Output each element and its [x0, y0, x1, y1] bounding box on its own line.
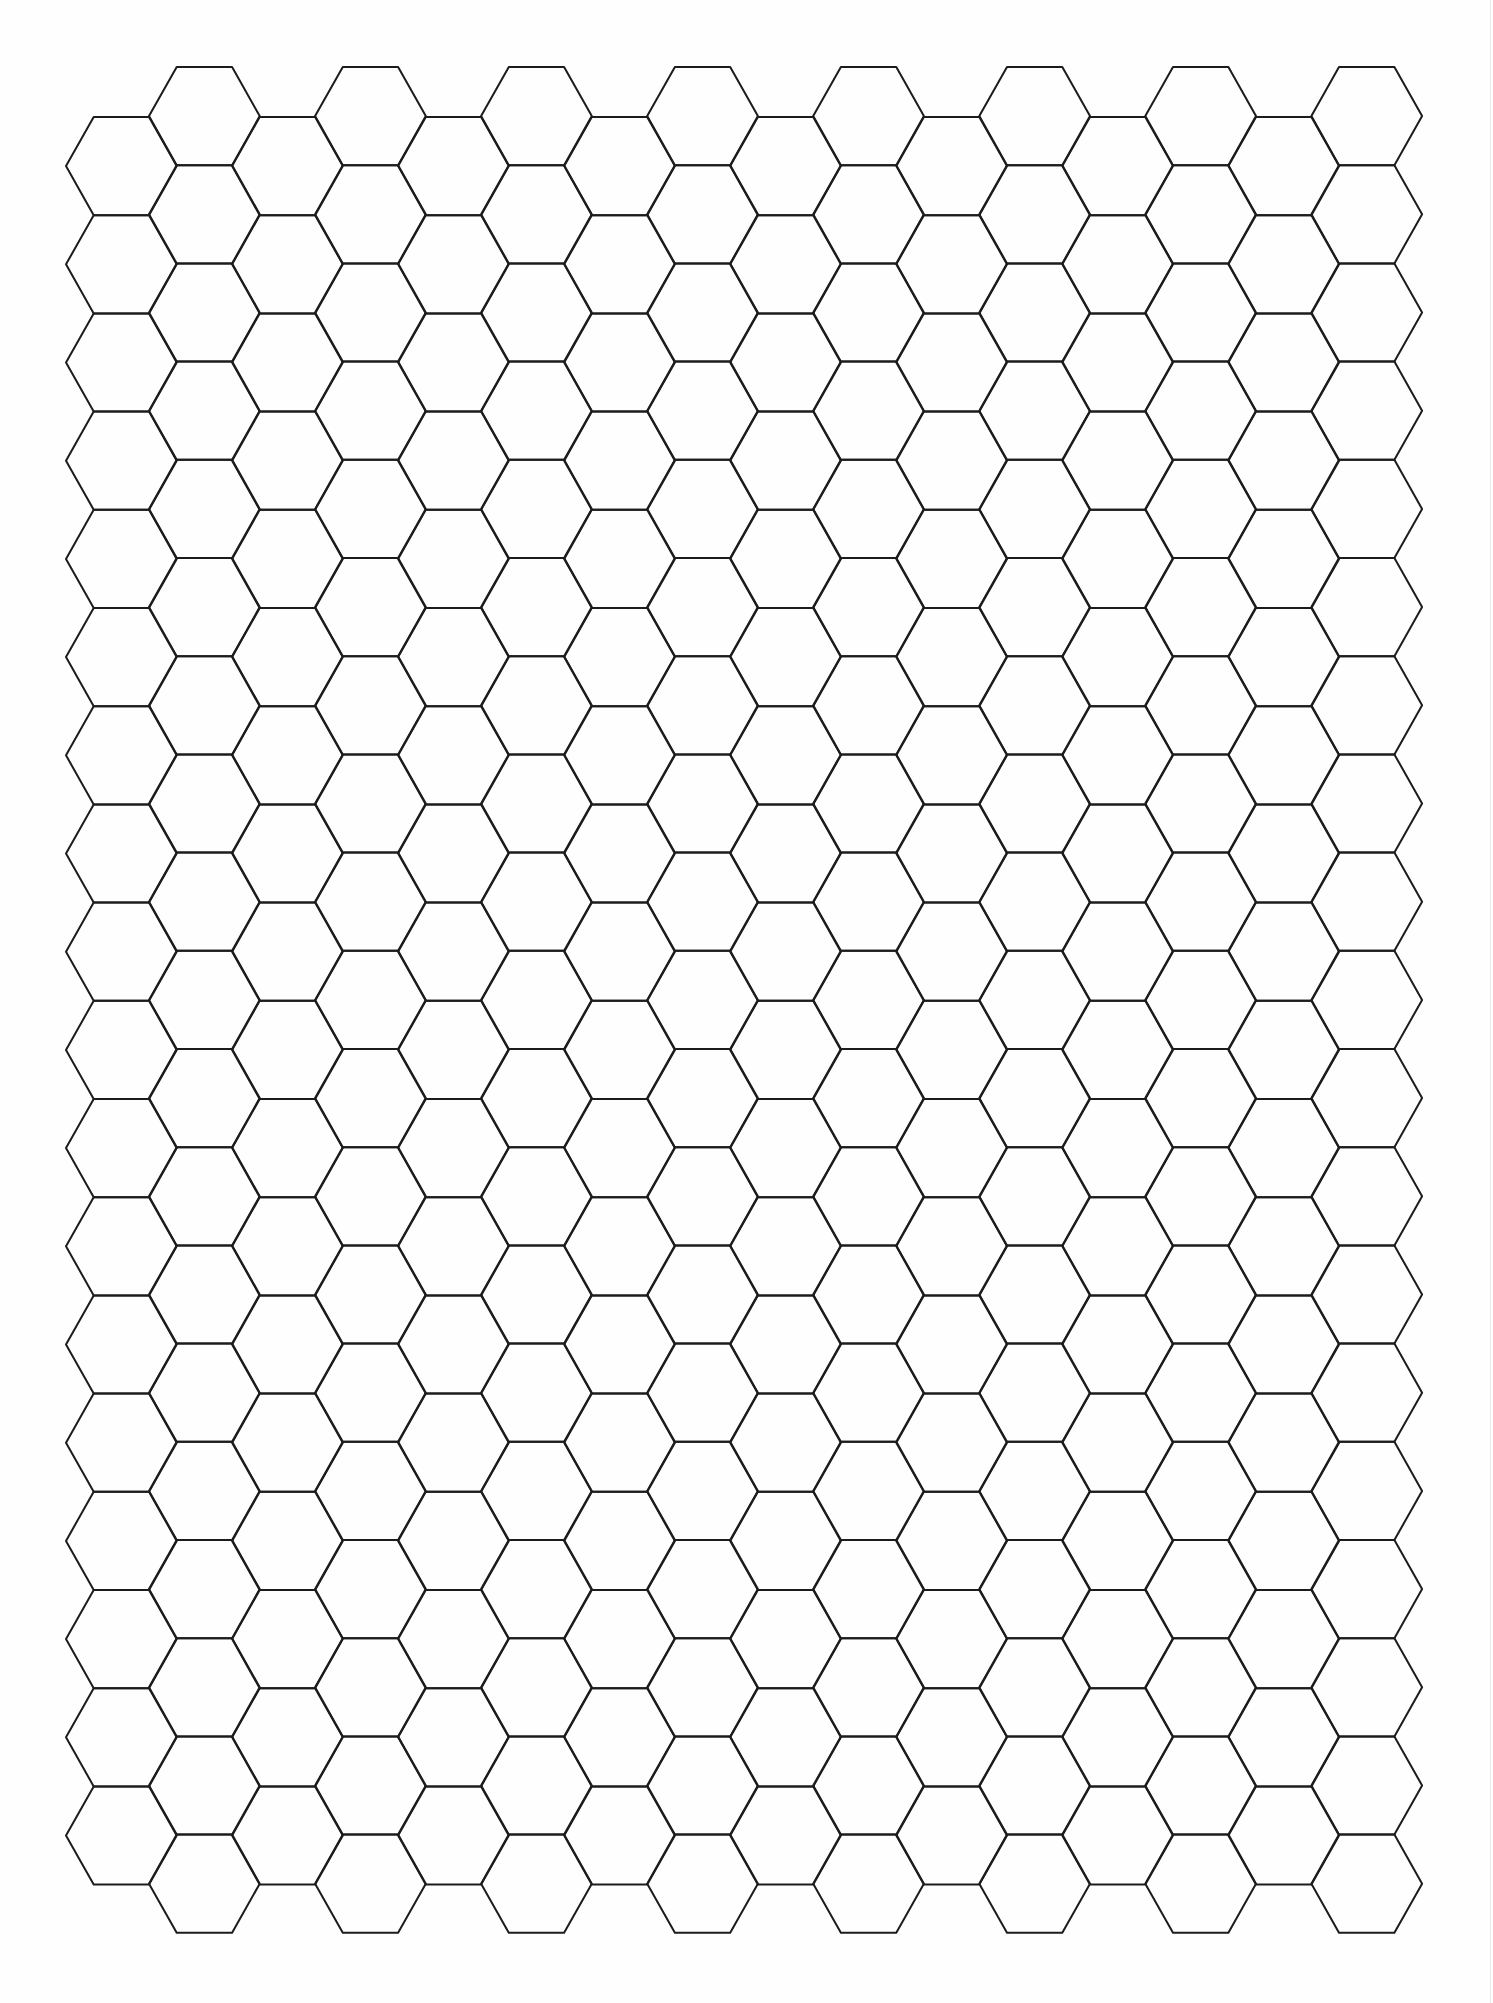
- hex-cell: [896, 1394, 1007, 1492]
- hex-cell: [232, 1492, 343, 1590]
- hex-cell: [647, 1245, 758, 1343]
- hex-cell: [315, 1442, 426, 1540]
- hex-cell: [979, 460, 1090, 558]
- hex-cell: [1145, 1344, 1256, 1442]
- hex-cell: [66, 1295, 177, 1393]
- hex-cell: [564, 608, 675, 706]
- hex-cell: [813, 263, 924, 361]
- hex-cell: [232, 1394, 343, 1492]
- hex-cell: [979, 1638, 1090, 1736]
- hex-cell: [1145, 1245, 1256, 1343]
- hex-cell: [813, 1147, 924, 1245]
- hex-cell: [232, 1001, 343, 1099]
- hex-cell: [398, 117, 509, 215]
- hex-cell: [66, 706, 177, 804]
- hex-cell: [979, 362, 1090, 460]
- hex-cell: [1062, 510, 1173, 608]
- hex-cell: [398, 1099, 509, 1197]
- hex-cell: [730, 1786, 841, 1884]
- hex-cell: [730, 510, 841, 608]
- hex-grid: [0, 0, 1493, 2003]
- hex-cell: [315, 165, 426, 263]
- hex-cell: [647, 1638, 758, 1736]
- hex-cell: [1062, 706, 1173, 804]
- hex-cell: [813, 656, 924, 754]
- hex-cell: [481, 1344, 592, 1442]
- hex-cell: [647, 1736, 758, 1834]
- hex-cell: [1145, 362, 1256, 460]
- hex-cell: [481, 951, 592, 1049]
- hex-cell: [315, 1245, 426, 1343]
- hex-cell: [979, 1245, 1090, 1343]
- hex-cell: [1311, 1049, 1422, 1147]
- hex-cell: [481, 1638, 592, 1736]
- hex-cell: [232, 1590, 343, 1688]
- hex-cell: [398, 1001, 509, 1099]
- hex-cell: [979, 1835, 1090, 1933]
- hex-cell: [149, 263, 260, 361]
- hex-cell: [730, 1099, 841, 1197]
- hex-cell: [149, 1344, 260, 1442]
- hex-cell: [1145, 951, 1256, 1049]
- hex-cell: [1145, 558, 1256, 656]
- paper-edge: [1490, 0, 1491, 2003]
- hex-cell: [896, 608, 1007, 706]
- hex-cell: [813, 1540, 924, 1638]
- hex-cell: [647, 656, 758, 754]
- hex-cell: [481, 1736, 592, 1834]
- hex-cell: [149, 1540, 260, 1638]
- hex-cell: [730, 706, 841, 804]
- hex-cell: [1062, 215, 1173, 313]
- hex-cell: [1145, 165, 1256, 263]
- hex-cell: [564, 1099, 675, 1197]
- hex-cell: [315, 656, 426, 754]
- hex-cell: [1062, 608, 1173, 706]
- hex-cell: [1311, 1442, 1422, 1540]
- hex-cell: [149, 362, 260, 460]
- hex-cell: [564, 1001, 675, 1099]
- hex-cell: [1062, 117, 1173, 215]
- hex-cell: [730, 1590, 841, 1688]
- hex-cell: [647, 1540, 758, 1638]
- hex-cell: [315, 1638, 426, 1736]
- hex-cell: [730, 117, 841, 215]
- hex-cell: [1145, 656, 1256, 754]
- hex-cell: [1228, 903, 1339, 1001]
- hex-cell: [1311, 362, 1422, 460]
- hex-cell: [66, 412, 177, 510]
- hex-cell: [647, 1835, 758, 1933]
- hex-cell: [1228, 1786, 1339, 1884]
- hex-cell: [1062, 1197, 1173, 1295]
- hex-cell: [232, 1197, 343, 1295]
- hex-cell: [647, 1049, 758, 1147]
- hex-cell: [979, 67, 1090, 165]
- hex-cell: [149, 754, 260, 852]
- hex-cell: [896, 1099, 1007, 1197]
- hex-cell: [730, 313, 841, 411]
- hex-cell: [1311, 656, 1422, 754]
- hex-cell: [232, 510, 343, 608]
- hex-cell: [730, 412, 841, 510]
- hex-cell: [1062, 1590, 1173, 1688]
- hex-cell: [1311, 460, 1422, 558]
- hex-cell: [149, 1049, 260, 1147]
- hex-cell: [813, 1049, 924, 1147]
- hex-cell: [1311, 558, 1422, 656]
- hex-cell: [564, 706, 675, 804]
- hex-cell: [564, 1295, 675, 1393]
- hex-cell: [896, 313, 1007, 411]
- hex-cell: [1311, 1245, 1422, 1343]
- hex-cell: [1062, 903, 1173, 1001]
- hex-cell: [315, 263, 426, 361]
- hex-cell: [1311, 263, 1422, 361]
- hex-cell: [481, 853, 592, 951]
- hex-cell: [315, 853, 426, 951]
- hex-cell: [398, 313, 509, 411]
- hex-cell: [896, 117, 1007, 215]
- hex-cell: [647, 951, 758, 1049]
- hex-cell: [1228, 1197, 1339, 1295]
- hex-cell: [564, 903, 675, 1001]
- hex-cell: [66, 1688, 177, 1786]
- hex-cell: [232, 1688, 343, 1786]
- hex-cell: [564, 804, 675, 902]
